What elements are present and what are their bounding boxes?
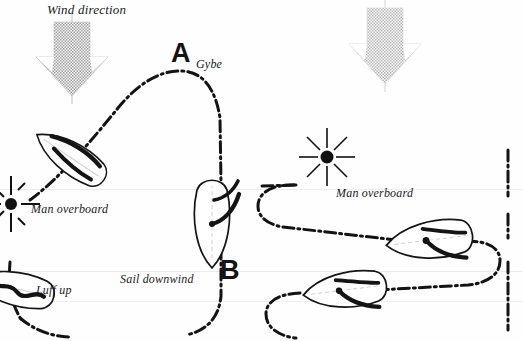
- mark-a-label: A: [171, 38, 191, 69]
- man-overboard-right: [299, 128, 355, 186]
- boat-return-lower: [301, 267, 389, 316]
- man-overboard-right-label: Man overboard: [336, 186, 413, 201]
- boat-return-upper: [384, 216, 475, 267]
- luff-up-label: Luff up: [36, 283, 72, 298]
- sail-downwind-label: Sail downwind: [120, 272, 194, 287]
- gybe-label: Gybe: [196, 57, 222, 72]
- mark-b-label: B: [220, 255, 240, 286]
- wind-direction-label: Wind direction: [47, 2, 126, 18]
- diagram-canvas: [0, 0, 523, 341]
- man-overboard-left-label: Man overboard: [31, 202, 108, 217]
- sailing-diagram-page: Wind direction Gybe Man overboard Man ov…: [0, 0, 523, 341]
- boat-upwind-left: [28, 122, 113, 193]
- wind-arrow-left: [36, 14, 108, 104]
- wind-arrow-right: [349, 0, 421, 92]
